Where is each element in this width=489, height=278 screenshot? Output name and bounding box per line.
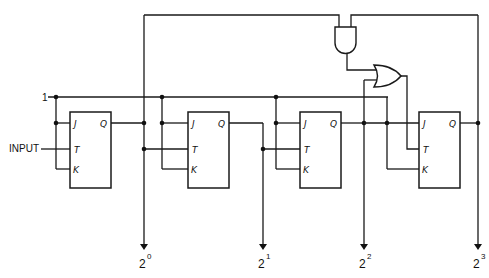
svg-text:0: 0 <box>147 252 152 261</box>
output-bus-2-0 <box>111 15 188 250</box>
output-bus-2-3 <box>460 15 482 250</box>
svg-text:2: 2 <box>473 257 480 271</box>
output-label-2-1: 2 1 <box>258 252 271 271</box>
logic-one-label: 1 <box>42 92 48 103</box>
svg-text:2: 2 <box>258 257 265 271</box>
flip-flop-1: J T K Q <box>188 112 229 188</box>
svg-text:Q: Q <box>218 119 225 129</box>
svg-text:3: 3 <box>481 252 486 261</box>
counter-circuit-diagram: 1 INPUT J T K Q J T K <box>0 0 489 278</box>
feedback-wires <box>144 15 478 27</box>
svg-text:Q: Q <box>330 119 337 129</box>
svg-text:Q: Q <box>449 119 456 129</box>
flip-flop-3: J T K Q <box>419 112 460 188</box>
output-labels: 2 0 2 1 2 2 2 3 <box>139 252 486 271</box>
output-bus-2-2 <box>341 80 378 250</box>
or-gate <box>374 65 419 149</box>
ff3-jk-feed <box>364 121 419 169</box>
and-gate <box>335 27 378 70</box>
output-label-2-3: 2 3 <box>473 252 486 271</box>
svg-text:Q: Q <box>100 119 107 129</box>
output-label-2-0: 2 0 <box>139 252 152 271</box>
output-bus-2-1 <box>229 123 300 250</box>
svg-text:1: 1 <box>266 252 271 261</box>
flip-flop-0: J T K Q <box>70 112 111 188</box>
svg-text:2: 2 <box>139 257 146 271</box>
output-label-2-2: 2 2 <box>359 252 372 271</box>
flip-flop-2: J T K Q <box>300 112 341 188</box>
svg-text:2: 2 <box>367 252 372 261</box>
input-label: INPUT <box>9 143 39 154</box>
input-line: INPUT <box>9 143 70 154</box>
svg-text:2: 2 <box>359 257 366 271</box>
